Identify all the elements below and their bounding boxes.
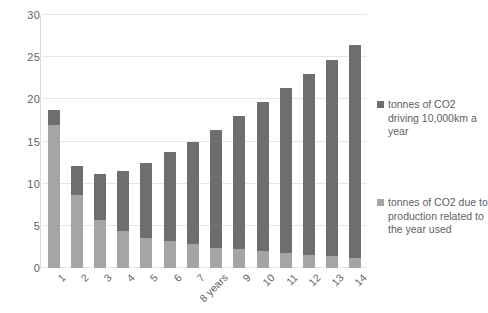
bar-segment[interactable]: [164, 152, 176, 241]
bar-segment[interactable]: [349, 258, 361, 268]
stacked-bar[interactable]: [280, 88, 292, 268]
legend-label-driving: tonnes of CO2 driving 10,000km a year: [388, 98, 488, 139]
legend-swatch-driving: [377, 101, 384, 108]
bar-segment[interactable]: [233, 116, 245, 249]
bar-segment[interactable]: [94, 220, 106, 268]
stacked-bar[interactable]: [94, 174, 106, 268]
y-tick-label: 10: [14, 179, 40, 190]
bar-segment[interactable]: [71, 195, 83, 268]
stacked-bar-chart: 051015202530 12345678 years91011121314 t…: [0, 0, 488, 313]
y-tick-label: 30: [14, 10, 40, 21]
gridline: [42, 14, 367, 15]
stacked-bar[interactable]: [257, 102, 269, 268]
stacked-bar[interactable]: [48, 110, 60, 268]
legend-entry-driving[interactable]: tonnes of CO2 driving 10,000km a year: [377, 98, 488, 139]
bar-segment[interactable]: [280, 253, 292, 268]
bar-slot: [48, 15, 60, 268]
bar-slot: [326, 15, 338, 268]
bar-slot: [280, 15, 292, 268]
bar-segment[interactable]: [233, 249, 245, 268]
gridline: [42, 141, 367, 142]
bar-slot: [210, 15, 222, 268]
stacked-bar[interactable]: [326, 60, 338, 268]
legend-entry-production[interactable]: tonnes of CO2 due to production related …: [377, 196, 488, 237]
x-axis: 12345678 years91011121314: [42, 268, 367, 313]
stacked-bar[interactable]: [164, 152, 176, 268]
bar-slot: [233, 15, 245, 268]
bar-segment[interactable]: [210, 248, 222, 268]
bar-segment[interactable]: [187, 142, 199, 245]
bar-segment[interactable]: [140, 238, 152, 268]
bar-segment[interactable]: [71, 166, 83, 195]
bar-slot: [71, 15, 83, 268]
bar-segment[interactable]: [164, 241, 176, 268]
bar-slot: [117, 15, 129, 268]
gridline: [42, 98, 367, 99]
bar-slot: [349, 15, 361, 268]
legend-swatch-production: [377, 199, 384, 206]
y-tick-label: 0: [14, 263, 40, 274]
bar-segment[interactable]: [48, 125, 60, 268]
bar-segment[interactable]: [257, 251, 269, 268]
bar-segment[interactable]: [48, 110, 60, 124]
bar-segment[interactable]: [303, 255, 315, 268]
bar-segment[interactable]: [187, 244, 199, 268]
bar-segment[interactable]: [117, 231, 129, 268]
chart-legend: tonnes of CO2 driving 10,000km a year to…: [377, 0, 488, 313]
bar-segment[interactable]: [140, 163, 152, 237]
y-tick-label: 20: [14, 94, 40, 105]
bar-segment[interactable]: [257, 102, 269, 251]
legend-label-production: tonnes of CO2 due to production related …: [388, 196, 488, 237]
stacked-bar[interactable]: [187, 142, 199, 269]
stacked-bar[interactable]: [71, 166, 83, 268]
y-axis-line: [40, 15, 41, 269]
bar-segment[interactable]: [326, 60, 338, 256]
y-tick-label: 15: [14, 137, 40, 148]
bar-slot: [187, 15, 199, 268]
bar-segment[interactable]: [349, 45, 361, 258]
stacked-bar[interactable]: [303, 74, 315, 268]
stacked-bar[interactable]: [233, 116, 245, 268]
bar-slot: [257, 15, 269, 268]
stacked-bar[interactable]: [140, 163, 152, 268]
bar-segment[interactable]: [326, 256, 338, 268]
bar-slot: [94, 15, 106, 268]
y-tick-label: 5: [14, 221, 40, 232]
bar-segment[interactable]: [303, 74, 315, 254]
bar-slot: [164, 15, 176, 268]
bar-slot: [140, 15, 152, 268]
stacked-bar[interactable]: [349, 45, 361, 268]
plot-area: [42, 15, 367, 268]
bar-segment[interactable]: [94, 174, 106, 220]
gridline: [42, 183, 367, 184]
bar-slot: [303, 15, 315, 268]
stacked-bar[interactable]: [117, 171, 129, 268]
y-tick-label: 25: [14, 52, 40, 63]
gridline: [42, 56, 367, 57]
y-axis: 051015202530: [14, 0, 40, 313]
bar-segment[interactable]: [280, 88, 292, 253]
stacked-bar[interactable]: [210, 130, 222, 268]
bar-segment[interactable]: [117, 171, 129, 231]
bar-segment[interactable]: [210, 130, 222, 248]
gridline: [42, 225, 367, 226]
